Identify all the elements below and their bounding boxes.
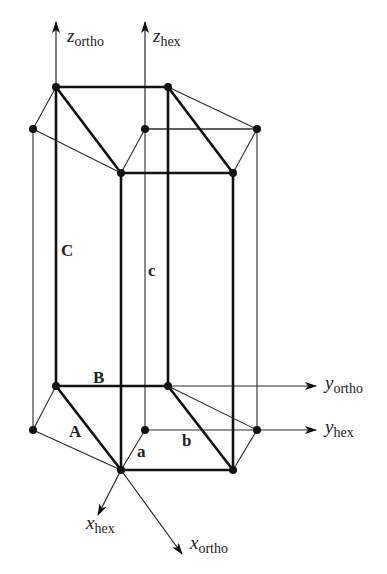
x-hex-label: xhex: [85, 512, 115, 536]
lattice-point: [52, 83, 60, 91]
x-ortho-axis: [121, 470, 182, 554]
lattice-point: [164, 382, 172, 390]
lattice-point: [229, 466, 237, 474]
lattice-point: [141, 426, 149, 434]
lattice-point: [229, 169, 237, 177]
lattice-point: [117, 169, 125, 177]
crystal-cell-diagram: zortho zhex yortho yhex xhex xortho C c …: [0, 0, 387, 574]
hexagonal-cell: [33, 87, 257, 470]
lattice-point: [117, 466, 125, 474]
ortho-top-right-diag: [168, 87, 233, 173]
x-hex-axis: [98, 470, 121, 515]
x-ortho-label: xortho: [189, 532, 228, 556]
ortho-bottom-right-diag: [168, 386, 233, 470]
label-B: B: [93, 368, 104, 387]
label-a: a: [137, 442, 146, 461]
z-hex-label: zhex: [152, 25, 181, 49]
lattice-point: [253, 125, 261, 133]
lattice-point: [29, 426, 37, 434]
ortho-top-left-diag: [56, 87, 121, 173]
lattice-point: [141, 125, 149, 133]
edge-labels: C c B A a b: [61, 241, 191, 461]
y-hex-label: yhex: [323, 416, 354, 440]
lattice-point: [253, 426, 261, 434]
hex-bottom-edge-right1: [168, 386, 257, 430]
z-ortho-label: zortho: [66, 25, 104, 49]
label-C: C: [61, 241, 73, 260]
axes: [56, 22, 316, 554]
hex-top-edge-right: [233, 129, 257, 173]
lattice-point: [52, 382, 60, 390]
hex-bottom-edge-right2: [233, 430, 257, 470]
lattice-point: [29, 125, 37, 133]
label-c: c: [148, 261, 156, 280]
axis-labels: zortho zhex yortho yhex xhex xortho: [66, 25, 363, 556]
label-A: A: [69, 422, 82, 441]
ortho-bottom-left-diag: [56, 386, 121, 470]
label-b: b: [182, 431, 191, 450]
lattice-point: [164, 83, 172, 91]
y-ortho-label: yortho: [323, 372, 363, 396]
